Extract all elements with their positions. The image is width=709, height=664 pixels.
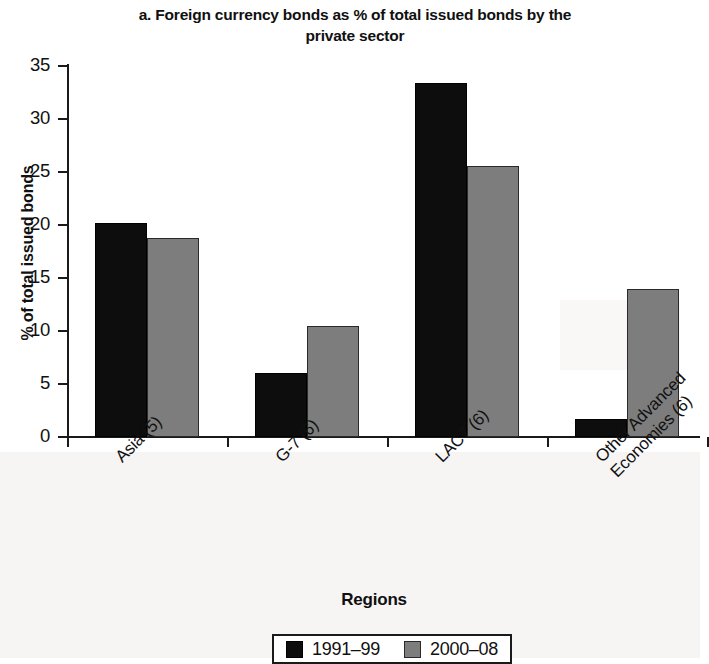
- legend-label: 2000–08: [430, 639, 498, 660]
- y-axis-tick: [58, 171, 67, 173]
- x-axis-tick: [387, 437, 389, 447]
- bar-lac7-6-2000-08: [467, 166, 519, 437]
- y-axis-tick-label: 30: [4, 107, 50, 129]
- legend-entry: 1991–99: [286, 639, 380, 660]
- y-axis-tick-label: 25: [4, 160, 50, 182]
- y-axis-tick: [58, 383, 67, 385]
- legend-entry: 2000–08: [404, 639, 498, 660]
- plot-area: [67, 66, 700, 437]
- bar-lac7-6-1991-99: [415, 83, 467, 437]
- x-axis-tick: [227, 437, 229, 447]
- chart-title: a. Foreign currency bonds as % of total …: [120, 4, 590, 46]
- black-square-swatch: [286, 641, 303, 658]
- bar-asia-5-1991-99: [95, 223, 147, 437]
- y-axis-tick: [58, 436, 67, 438]
- y-axis-tick-label: 15: [4, 266, 50, 288]
- x-axis-tick: [67, 437, 69, 447]
- chart-legend: 1991–992000–08: [272, 634, 512, 664]
- y-axis-tick-label: 0: [4, 425, 50, 447]
- y-axis-tick: [58, 224, 67, 226]
- x-axis-tick: [547, 437, 549, 447]
- bar-g-7-6-2000-08: [307, 326, 359, 437]
- legend-label: 1991–99: [312, 639, 380, 660]
- gray-square-swatch: [404, 641, 421, 658]
- y-axis-tick-label: 20: [4, 213, 50, 235]
- y-axis-tick-label: 35: [4, 54, 50, 76]
- y-axis-tick: [58, 65, 67, 67]
- y-axis-tick: [58, 277, 67, 279]
- y-axis-tick: [58, 330, 67, 332]
- y-axis-tick: [58, 118, 67, 120]
- x-axis-title: Regions: [0, 590, 700, 610]
- bar-asia-5-2000-08: [147, 238, 199, 437]
- y-axis-tick-label: 5: [4, 372, 50, 394]
- y-axis-tick-label: 10: [4, 319, 50, 341]
